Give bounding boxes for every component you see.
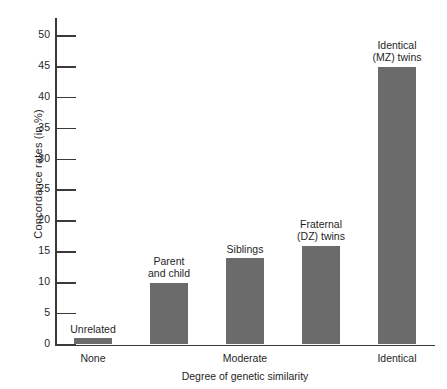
bar-chart: Concordance rates (in %) 051015202530354… [0, 0, 447, 389]
y-axis-tick-label: 25 [38, 182, 50, 195]
y-axis-tick: 5 [55, 313, 76, 315]
y-axis-tick: 10 [55, 282, 76, 284]
y-axis-tick-mark [56, 35, 76, 37]
y-axis-tick-label: 35 [38, 121, 50, 134]
bar-label: Parent and child [114, 255, 224, 280]
y-axis-tick: 50 [55, 35, 76, 37]
x-axis-tick-label: Moderate [185, 352, 305, 364]
bar-label: Identical (MZ) twins [342, 39, 447, 64]
y-axis-tick-mark [56, 313, 76, 315]
y-axis-tick-mark [56, 189, 76, 191]
y-axis-tick-label: 50 [38, 28, 50, 41]
y-axis-tick-mark [56, 97, 76, 99]
y-axis-tick-mark [56, 282, 76, 284]
y-axis-tick: 45 [55, 66, 76, 68]
y-axis-tick-label: 40 [38, 90, 50, 103]
bar-label: Unrelated [38, 323, 148, 336]
bar [302, 246, 340, 345]
y-axis-tick: 40 [55, 97, 76, 99]
y-axis-tick-mark [56, 159, 76, 161]
y-axis-tick-mark [56, 251, 76, 253]
y-axis-tick-label: 30 [38, 152, 50, 165]
plot-area: 05101520253035404550 UnrelatedParent and… [55, 18, 435, 346]
y-axis-tick-label: 45 [38, 59, 50, 72]
y-axis-tick: 20 [55, 220, 76, 222]
x-axis-line [55, 345, 435, 347]
y-axis-tick-mark [56, 344, 76, 346]
y-axis-tick: 15 [55, 251, 76, 253]
bar [74, 338, 112, 344]
bar [226, 258, 264, 344]
y-axis-tick-mark [56, 220, 76, 222]
y-axis-tick-label: 20 [38, 213, 50, 226]
y-axis-tick-label: 5 [44, 306, 50, 319]
y-axis-tick-label: 15 [38, 244, 50, 257]
bar [378, 67, 416, 345]
x-axis-tick-label: Identical [337, 352, 447, 364]
bar-label: Siblings [190, 243, 300, 256]
y-axis-tick: 30 [55, 159, 76, 161]
y-axis-tick: 0 [55, 344, 76, 346]
bar [150, 283, 188, 345]
bar-label: Fraternal (DZ) twins [266, 218, 376, 243]
y-axis-tick-label: 10 [38, 275, 50, 288]
x-axis-tick-label: None [33, 352, 153, 364]
x-axis-title: Degree of genetic similarity [55, 370, 435, 382]
y-axis-tick-mark [56, 128, 76, 130]
y-axis-tick: 25 [55, 189, 76, 191]
y-axis-tick-label: 0 [44, 337, 50, 350]
y-axis-tick-mark [56, 66, 76, 68]
y-axis-tick: 35 [55, 128, 76, 130]
